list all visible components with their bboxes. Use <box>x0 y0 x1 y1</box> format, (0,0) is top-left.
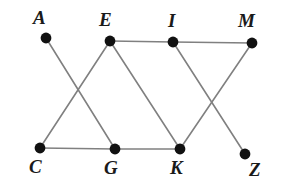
vertex-label-e: E <box>99 10 112 29</box>
edge-i-z <box>173 42 245 154</box>
vertex-label-z: Z <box>249 160 261 179</box>
vertex-m[interactable] <box>247 38 258 49</box>
vertex-label-a: A <box>33 8 46 27</box>
edge-i-m <box>173 42 252 43</box>
edge-e-i <box>110 41 173 42</box>
edge-e-c <box>40 41 110 148</box>
edges-group <box>40 38 252 154</box>
edge-a-g <box>46 38 115 149</box>
vertex-z[interactable] <box>240 149 251 160</box>
edge-m-k <box>180 43 252 149</box>
vertex-label-i: I <box>168 11 175 30</box>
edge-e-k <box>110 41 180 149</box>
vertex-c[interactable] <box>35 143 46 154</box>
edge-c-g <box>40 148 115 149</box>
vertex-g[interactable] <box>110 144 121 155</box>
vertex-label-c: C <box>29 157 42 176</box>
vertex-label-g: G <box>104 158 118 177</box>
graph-diagram: AEIMCGKZ <box>0 0 294 196</box>
vertex-label-k: K <box>170 158 183 177</box>
vertex-label-m: M <box>238 11 255 30</box>
vertex-a[interactable] <box>41 33 52 44</box>
vertex-i[interactable] <box>168 37 179 48</box>
vertex-k[interactable] <box>175 144 186 155</box>
vertex-e[interactable] <box>105 36 116 47</box>
